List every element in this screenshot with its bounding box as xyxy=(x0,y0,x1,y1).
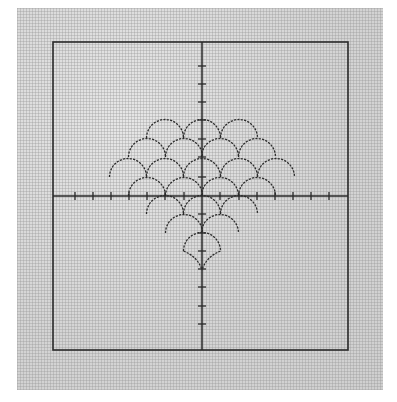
bottom-cusp-right xyxy=(202,251,221,270)
scale-arc xyxy=(202,139,239,158)
scale-arc xyxy=(258,159,295,178)
scale-arc xyxy=(239,139,276,158)
scale-pattern-plot xyxy=(0,0,397,402)
scale-arc xyxy=(221,159,258,178)
scale-arc xyxy=(147,120,184,138)
scale-arc xyxy=(166,139,203,158)
scale-arc xyxy=(110,159,147,178)
scale-arc xyxy=(202,215,239,234)
scale-arc xyxy=(166,215,203,234)
scale-arc xyxy=(147,159,184,178)
bottom-cusp-left xyxy=(184,251,203,270)
scale-arc xyxy=(221,120,258,138)
scale-arc xyxy=(129,139,166,157)
